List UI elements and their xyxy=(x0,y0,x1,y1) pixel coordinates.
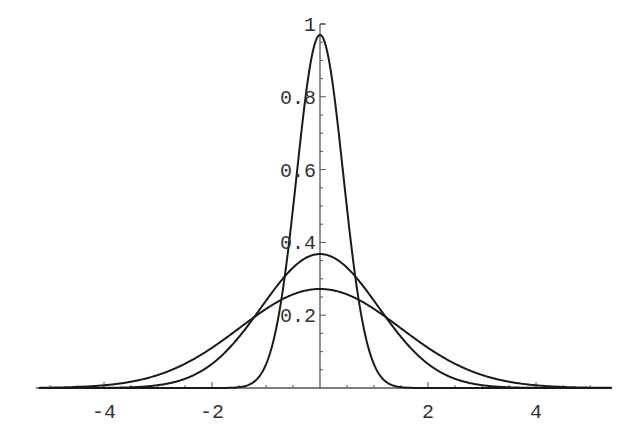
y-tick-label: 1 xyxy=(304,14,316,37)
y-tick-label: 0.8 xyxy=(280,87,316,110)
curve-medium xyxy=(39,254,611,388)
chart: -4-2240.20.40.60.81 xyxy=(0,0,640,437)
axes xyxy=(36,24,607,388)
x-tick-label: 2 xyxy=(422,401,434,424)
x-tick-label: -2 xyxy=(200,401,224,424)
x-tick-label: -4 xyxy=(92,401,116,424)
curve-narrow xyxy=(39,35,611,388)
x-tick-label: 4 xyxy=(530,401,542,424)
tick-labels: -4-2240.20.40.60.81 xyxy=(92,14,542,424)
curves xyxy=(39,35,611,388)
curve-wide xyxy=(39,289,611,388)
y-tick-label: 0.4 xyxy=(280,232,316,255)
y-tick-label: 0.2 xyxy=(280,305,316,328)
y-tick-label: 0.6 xyxy=(280,160,316,183)
